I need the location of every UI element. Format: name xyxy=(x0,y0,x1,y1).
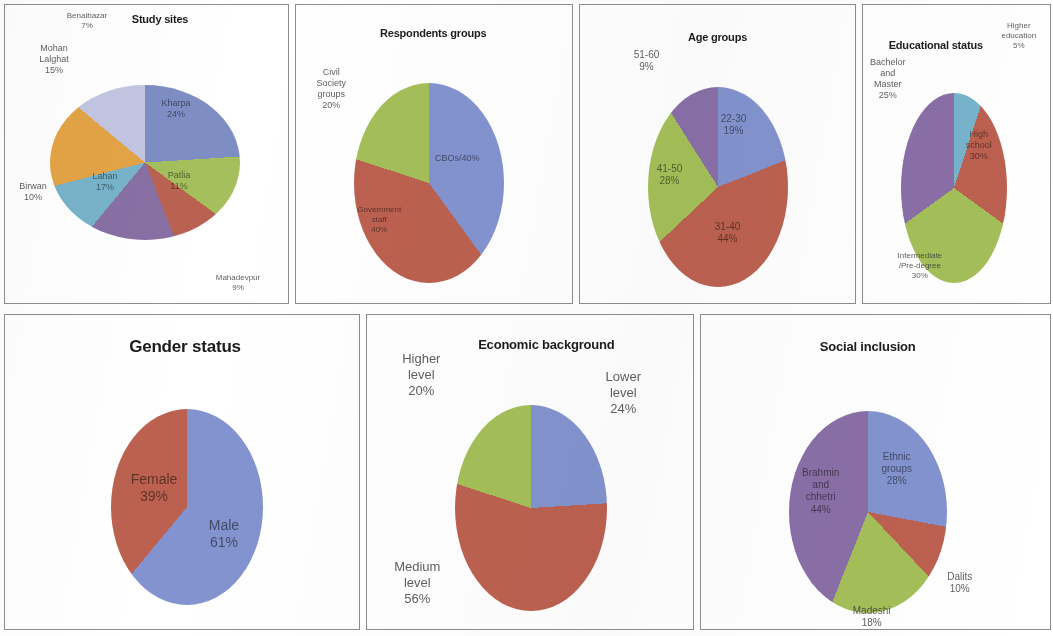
pie-economic-background xyxy=(455,405,607,611)
label-male: Male 61% xyxy=(197,517,251,551)
panel-age-groups: Age groups 51-60 9% 22-30 19% 41-50 28% … xyxy=(579,4,856,304)
pie-slices xyxy=(354,83,504,283)
label-lower-level: Lower level 24% xyxy=(591,369,655,417)
label-benaibazar: Benaibazar 7% xyxy=(57,11,117,31)
label-female: Female 39% xyxy=(121,471,187,505)
label-intermediate-pre-degree: Intermediate /Pre-degree 30% xyxy=(889,251,951,280)
label-dalits: Dalits 10% xyxy=(937,571,983,595)
label-mahadevpur: Mahadevpur 9% xyxy=(201,273,275,293)
charts-row-top: Study sites Benaibazar 7% Mohan Lalghat … xyxy=(0,0,1053,310)
chart-title-respondents-groups: Respondents groups xyxy=(358,27,508,39)
pie-respondents-groups xyxy=(354,83,504,283)
panel-respondents-groups: Respondents groups Civil Society groups … xyxy=(295,4,572,304)
label-lahan: Lahan 17% xyxy=(83,171,127,193)
label-medium-level: Medium level 56% xyxy=(381,559,453,607)
panel-economic-background: Economic background Higher level 20% Low… xyxy=(366,314,693,630)
panel-social-inclusion: Social inclusion Ethnic groups 28% Dalit… xyxy=(700,314,1051,630)
label-brahmin-chhetri: Brahmin and chhetri 44% xyxy=(793,467,849,516)
label-kharpa: Kharpa 24% xyxy=(153,98,199,120)
chart-title-educational-status: Educational status xyxy=(881,39,991,51)
label-ethnic-groups: Ethnic groups 28% xyxy=(869,451,925,488)
label-birwan: Birwan 10% xyxy=(7,181,59,203)
label-higher-level: Higher level 20% xyxy=(389,351,453,399)
chart-title-study-sites: Study sites xyxy=(105,13,215,25)
pie-study-sites xyxy=(50,85,240,240)
label-government-staff: Government staff 40% xyxy=(346,205,412,234)
label-age-51-60: 51-60 9% xyxy=(620,49,674,73)
label-high-school: High school 30% xyxy=(959,129,999,162)
label-patlia: Patlia 11% xyxy=(157,170,201,192)
panel-educational-status: Educational status Higher education 5% B… xyxy=(862,4,1051,304)
label-age-31-40: 31-40 44% xyxy=(704,221,752,245)
pie-slices xyxy=(50,85,240,240)
panel-gender-status: Gender status Female 39% Male 61% xyxy=(4,314,360,630)
label-age-41-50: 41-50 28% xyxy=(646,163,694,187)
label-higher-education: Higher education 5% xyxy=(991,21,1047,50)
label-cbos: CBOs/40% xyxy=(424,153,490,164)
label-madeshi: Madeshi 18% xyxy=(841,605,903,629)
pie-gender-status xyxy=(111,409,263,605)
charts-row-bottom: Gender status Female 39% Male 61% Econom… xyxy=(0,310,1053,636)
label-age-22-30: 22-30 19% xyxy=(710,113,758,137)
label-bachelor-master: Bachelor and Master 25% xyxy=(863,57,913,101)
label-civil-society-groups: Civil Society groups 20% xyxy=(304,67,358,111)
pie-slices xyxy=(455,405,607,611)
chart-title-social-inclusion: Social inclusion xyxy=(793,339,943,354)
chart-title-age-groups: Age groups xyxy=(668,31,768,43)
chart-title-gender-status: Gender status xyxy=(95,337,275,357)
label-mohan-lalghat: Mohan Lalghat 15% xyxy=(23,43,85,76)
panel-study-sites: Study sites Benaibazar 7% Mohan Lalghat … xyxy=(4,4,289,304)
chart-title-economic-background: Economic background xyxy=(461,337,631,352)
pie-slices xyxy=(111,409,263,605)
